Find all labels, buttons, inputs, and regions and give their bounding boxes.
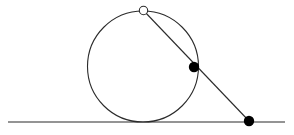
filled-point-on-circle-marker [189,62,199,72]
filled-point-on-baseline-marker [244,116,254,126]
figure-background [0,0,294,135]
figure-canvas [0,0,294,135]
open-point-top-marker [139,6,147,14]
geometry-figure [0,0,294,135]
